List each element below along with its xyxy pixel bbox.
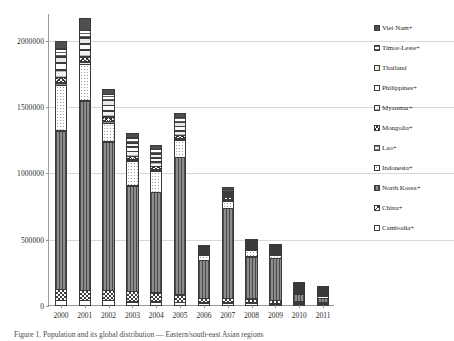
legend-swatch-icon — [374, 225, 380, 231]
bar-segment-northkorea — [269, 258, 281, 300]
bar-2009[interactable] — [269, 243, 281, 305]
bar-segment-northkorea — [102, 142, 114, 291]
legend-swatch-icon — [374, 205, 380, 211]
x-axis-tick — [109, 305, 110, 308]
legend-item-philippines[interactable]: Philippines+ — [374, 78, 453, 98]
bar-segment-northkorea — [174, 157, 186, 295]
legend-swatch-icon — [374, 165, 380, 171]
bar-segment-china — [79, 290, 91, 301]
bar-segment-northkorea — [245, 257, 257, 299]
x-axis-tick — [156, 305, 157, 308]
x-axis-label-2007: 2007 — [220, 311, 235, 320]
bar-segment-china — [102, 290, 114, 301]
legend-item-mongolia[interactable]: Mongolia+ — [374, 118, 453, 138]
x-axis-tick — [252, 305, 253, 308]
x-axis-tick — [180, 305, 181, 308]
legend-item-vietnam[interactable]: Viet Nam+ — [374, 18, 453, 38]
legend-item-label: Cambodia+ — [382, 225, 414, 232]
y-axis-tick-label: 500000 — [21, 235, 44, 244]
bar-segment-indonesia — [126, 161, 138, 186]
legend-item-label: Myanmar+ — [382, 105, 413, 112]
x-axis-label-2003: 2003 — [125, 311, 140, 320]
figure-caption: Figure 1. Population and its global dist… — [14, 330, 434, 339]
bar-segment-indonesia — [174, 140, 186, 157]
y-axis-tick-label: 1000000 — [17, 169, 44, 178]
x-axis-label-2011: 2011 — [316, 311, 331, 320]
bar-2007[interactable] — [222, 183, 234, 306]
y-axis-tick-label: 1500000 — [17, 102, 44, 111]
legend-item-label: Lao+ — [382, 145, 397, 152]
plot-area: 0500000100000015000002000000200020012002… — [48, 14, 334, 306]
x-axis-label-2010: 2010 — [292, 311, 307, 320]
legend-swatch-icon — [374, 25, 380, 31]
x-axis-label-2009: 2009 — [268, 311, 283, 320]
y-axis-tick — [46, 41, 49, 42]
y-axis-tick — [46, 306, 49, 307]
y-axis-tick-label: 2000000 — [17, 36, 44, 45]
bar-segment-northkorea — [150, 192, 162, 293]
x-axis-label-2001: 2001 — [77, 311, 92, 320]
legend-item-label: Indonesia+ — [382, 165, 413, 172]
legend-swatch-icon — [374, 145, 380, 151]
legend-swatch-icon — [374, 65, 380, 71]
bar-2008[interactable] — [245, 237, 257, 305]
x-axis-tick — [132, 305, 133, 308]
legend-item-label: Philippines+ — [382, 85, 417, 92]
y-axis-tick — [46, 240, 49, 241]
legend-item-label: North Korea+ — [382, 185, 421, 192]
legend-item-label: China+ — [382, 205, 402, 212]
legend-item-label: Thailand — [382, 65, 406, 72]
bar-segment-northkorea — [79, 101, 91, 291]
bar-2002[interactable] — [102, 83, 114, 305]
y-axis-tick-label: 0 — [40, 302, 44, 311]
x-axis-tick — [85, 305, 86, 308]
bar-segment-indonesia — [102, 123, 114, 142]
legend-item-thailand[interactable]: Thailand — [374, 58, 453, 78]
bar-2003[interactable] — [126, 127, 138, 305]
x-axis-tick — [275, 305, 276, 308]
legend-swatch-icon — [374, 85, 380, 91]
x-axis-label-2002: 2002 — [101, 311, 116, 320]
bar-2010[interactable] — [293, 282, 305, 305]
legend-swatch-icon — [374, 125, 380, 131]
bar-segment-indonesia — [55, 85, 67, 131]
legend-swatch-icon — [374, 105, 380, 111]
bar-segment-northkorea — [222, 208, 234, 298]
x-axis-tick — [228, 305, 229, 308]
y-axis-tick — [46, 173, 49, 174]
bar-segment-indonesia — [150, 171, 162, 193]
legend-item-cambodia[interactable]: Cambodia+ — [374, 218, 453, 238]
legend-swatch-icon — [374, 45, 380, 51]
bar-segment-indonesia — [79, 64, 91, 101]
x-axis-tick — [61, 305, 62, 308]
bar-2005[interactable] — [174, 108, 186, 305]
y-axis-tick — [46, 107, 49, 108]
x-axis-label-2008: 2008 — [244, 311, 259, 320]
x-axis-tick — [204, 305, 205, 308]
legend-item-china[interactable]: China+ — [374, 198, 453, 218]
x-axis-tick — [323, 305, 324, 308]
bar-segment-northkorea — [126, 186, 138, 292]
legend-item-label: Viet Nam+ — [382, 25, 413, 32]
bar-segment-vietnam — [79, 18, 91, 31]
legend-item-myanmar[interactable]: Myanmar+ — [374, 98, 453, 118]
x-axis-tick — [299, 305, 300, 308]
bar-2000[interactable] — [55, 36, 67, 305]
bar-segment-china — [126, 291, 138, 302]
bar-2011[interactable] — [317, 286, 329, 305]
legend-item-label: Mongolia+ — [382, 125, 413, 132]
x-axis-label-2004: 2004 — [149, 311, 164, 320]
legend-item-lao[interactable]: Lao+ — [374, 138, 453, 158]
legend-swatch-icon — [374, 185, 380, 191]
bar-2001[interactable] — [79, 12, 91, 305]
bar-2004[interactable] — [150, 140, 162, 305]
x-axis-label-2005: 2005 — [173, 311, 188, 320]
bar-segment-northkorea — [55, 131, 67, 290]
legend-item-timorleste[interactable]: Timor-Leste+ — [374, 38, 453, 58]
legend-item-indonesia[interactable]: Indonesia+ — [374, 158, 453, 178]
legend-item-label: Timor-Leste+ — [382, 45, 420, 52]
bar-2006[interactable] — [198, 244, 210, 305]
chart-legend: Viet Nam+Timor-Leste+ThailandPhilippines… — [374, 18, 453, 238]
bar-segment-china — [55, 289, 67, 300]
legend-item-northkorea[interactable]: North Korea+ — [374, 178, 453, 198]
